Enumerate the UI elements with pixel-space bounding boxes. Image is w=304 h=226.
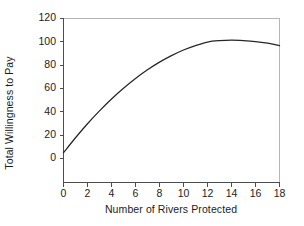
chart-figure: Total Willingness to Pay Number of River… [0,0,304,226]
x-tick-label: 16 [250,187,262,199]
y-tick-label: 120 [38,11,56,23]
x-tick-label: 0 [61,187,67,199]
y-tick-label: 60 [44,81,56,93]
y-tick-label: 100 [38,35,56,47]
y-tick-label: 20 [44,128,56,140]
y-tick-label: 0 [50,151,56,163]
plot-area: 0 20 40 60 80 100 120 0 2 4 6 8 [0,0,304,226]
x-tick-label: 14 [226,187,238,199]
y-tick-labels: 0 20 40 60 80 100 120 [38,11,56,163]
x-tick-label: 8 [157,187,163,199]
x-tick-labels: 0 2 4 6 8 10 12 14 16 18 [61,187,286,199]
y-tick-label: 40 [44,105,56,117]
x-tick-label: 18 [274,187,286,199]
y-tick-marks [60,19,64,159]
y-tick-label: 80 [44,58,56,70]
x-tick-label: 10 [178,187,190,199]
x-tick-marks [64,183,280,187]
x-tick-label: 2 [85,187,91,199]
x-tick-label: 12 [202,187,214,199]
wtp-curve [64,40,280,152]
x-tick-label: 4 [109,187,115,199]
x-tick-label: 6 [133,187,139,199]
